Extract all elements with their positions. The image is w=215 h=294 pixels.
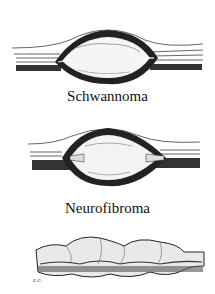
- plexiform-illustration: [0, 230, 215, 280]
- schwannoma-label: Schwannoma: [0, 88, 215, 105]
- neurofibroma-label: Neurofibroma: [0, 200, 215, 217]
- neurofibroma-illustration: [0, 122, 215, 190]
- schwannoma-illustration: [0, 18, 215, 86]
- artist-signature: E.G.: [33, 278, 42, 283]
